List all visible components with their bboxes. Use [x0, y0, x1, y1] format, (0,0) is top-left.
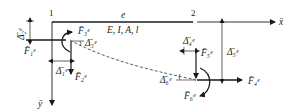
moment-F6-label: F̄₆ᵉ: [183, 91, 196, 101]
properties-label: E, I, A, l: [106, 25, 139, 35]
node-2-label: 2: [191, 8, 196, 18]
disp-D2-label: Δ̄₂ᵉ: [16, 28, 26, 41]
moment-F6-arc: [200, 68, 210, 96]
beam-element-diagram: x̄ ȳ 1 2 e E, I, A, l F̄₁ᵉ Δ̄₂ᵉ F̄₃ᵉ Δ̄₃…: [0, 0, 294, 112]
disp-D6-arc: [179, 74, 180, 80]
moment-F3-label: F̄₃ᵉ: [77, 26, 90, 36]
disp-D3-label: Δ̄₃ᵉ: [84, 38, 97, 48]
disp-D5-label: Δ̄₅ᵉ: [226, 47, 239, 57]
force-F1-label: F̄₁ᵉ: [23, 46, 36, 56]
element-label: e: [121, 10, 125, 20]
disp-D1-label: Δ̄₁ᵉ: [55, 66, 68, 76]
x-axis-label: x̄: [278, 17, 284, 27]
force-F4-label: F̄₄ᵉ: [247, 76, 260, 86]
disp-D4-label: Δ̄₄ᵉ: [182, 36, 195, 46]
y-axis-label: ȳ: [37, 99, 43, 109]
force-F2-label: F̄₂ᵉ: [74, 72, 87, 82]
force-F5-label: F̄₅ᵉ: [200, 48, 213, 58]
node-1-label: 1: [49, 8, 54, 18]
disp-D6-label: Δ̄₆ᵉ: [159, 75, 172, 85]
